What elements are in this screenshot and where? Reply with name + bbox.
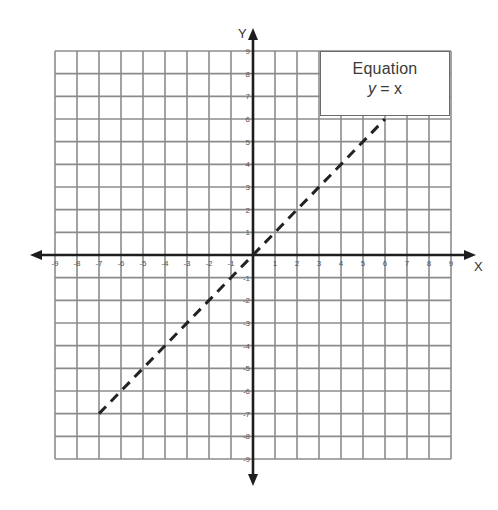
x-axis-arrow-left-icon <box>30 250 42 260</box>
x-tick-label: -5 <box>139 259 147 268</box>
y-tick-label: 4 <box>246 160 251 169</box>
y-tick-label: 2 <box>246 206 251 215</box>
x-tick-label: 1 <box>273 259 278 268</box>
x-tick-label: -4 <box>161 259 169 268</box>
y-tick-label: 9 <box>246 47 251 56</box>
x-tick-label: 5 <box>361 259 366 268</box>
x-axis-label: X <box>474 259 483 274</box>
x-tick-label: 8 <box>427 259 432 268</box>
legend-equation-rhs: = x <box>376 80 402 97</box>
x-tick-label: 2 <box>295 259 300 268</box>
equation-legend: Equation y = x <box>320 51 450 116</box>
x-tick-label: -8 <box>73 259 81 268</box>
legend-title: Equation <box>321 60 449 78</box>
y-tick-label: -6 <box>243 387 251 396</box>
y-tick-label: 8 <box>246 70 251 79</box>
x-tick-label: 6 <box>383 259 388 268</box>
y-tick-label: -5 <box>243 364 251 373</box>
x-tick-label: -2 <box>205 259 213 268</box>
x-tick-label: 3 <box>317 259 322 268</box>
x-tick-label: -3 <box>183 259 191 268</box>
x-tick-label: -7 <box>95 259 103 268</box>
x-tick-label: 9 <box>449 259 454 268</box>
y-tick-label: -2 <box>243 296 251 305</box>
y-tick-label: 6 <box>246 115 251 124</box>
y-tick-label: 5 <box>246 138 251 147</box>
y-tick-label: -4 <box>243 342 251 351</box>
y-axis-arrow-up-icon <box>248 28 258 40</box>
y-tick-label: 7 <box>246 92 251 101</box>
y-axis-arrow-down-icon <box>248 474 258 486</box>
y-tick-label: 3 <box>246 183 251 192</box>
x-tick-label: -9 <box>51 259 59 268</box>
legend-equation-lhs: y <box>368 80 376 97</box>
x-tick-label: -1 <box>227 259 235 268</box>
x-tick-label: -6 <box>117 259 125 268</box>
y-axis-label: Y <box>238 26 247 41</box>
x-tick-label: 4 <box>339 259 344 268</box>
y-tick-label: -8 <box>243 432 251 441</box>
legend-equation: y = x <box>321 80 449 98</box>
y-tick-label: -7 <box>243 410 251 419</box>
y-tick-label: -1 <box>243 274 251 283</box>
y-tick-label: -3 <box>243 319 251 328</box>
y-tick-label: 1 <box>246 228 251 237</box>
y-tick-label: -9 <box>243 455 251 464</box>
x-tick-label: 7 <box>405 259 410 268</box>
